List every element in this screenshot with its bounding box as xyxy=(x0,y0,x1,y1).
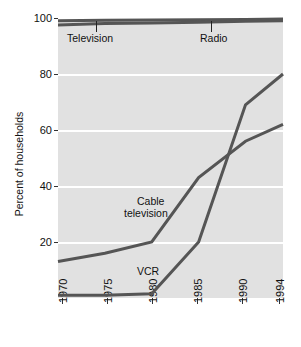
leader-television xyxy=(96,21,97,32)
annotation-cable-line2: television xyxy=(124,208,168,220)
series-line-cable-television xyxy=(58,124,283,261)
chart-figure: Percent of households 100 80 60 40 20 19… xyxy=(0,0,301,347)
annotation-cable-line1: Cable xyxy=(137,196,164,208)
annotation-radio: Radio xyxy=(200,33,227,45)
series-line-vcr xyxy=(58,74,283,295)
annotation-television: Television xyxy=(67,33,113,45)
annotation-vcr: VCR xyxy=(137,266,159,278)
leader-radio xyxy=(211,21,212,32)
series-lines xyxy=(0,0,301,347)
